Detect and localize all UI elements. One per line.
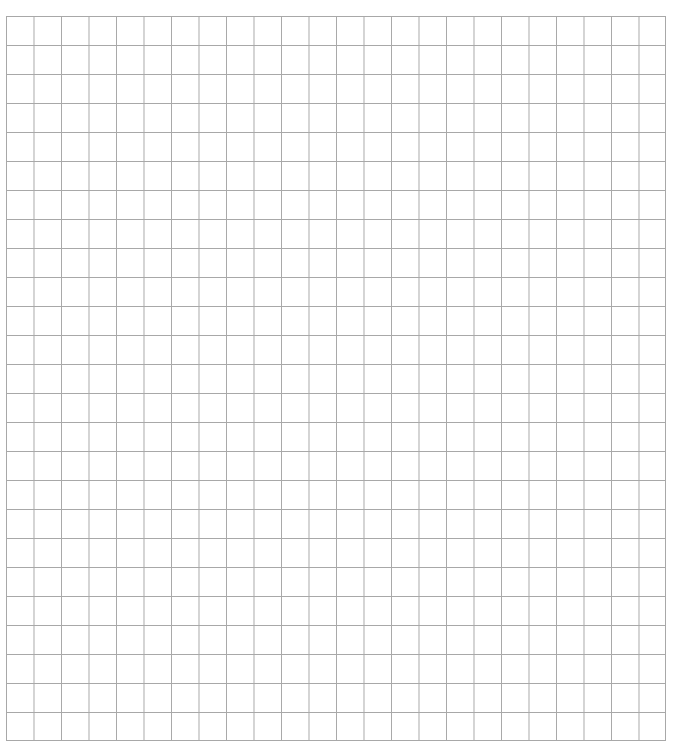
graph-paper-grid — [6, 16, 666, 741]
